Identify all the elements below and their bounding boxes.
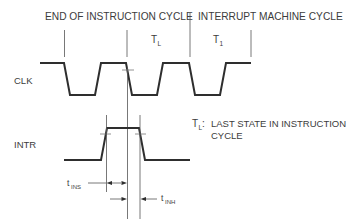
signal-label-clk: CLK (14, 75, 33, 86)
setup-time-dimension: t INS (67, 178, 127, 190)
svg-text:T: T (213, 34, 219, 45)
interrupt-timing-diagram: END OF INSTRUCTION CYCLE INTERRUPT MACHI… (0, 0, 363, 219)
header-interrupt-machine-cycle: INTERRUPT MACHINE CYCLE (198, 11, 343, 22)
arrow-right-icon (122, 197, 128, 201)
svg-text:L: L (158, 40, 162, 47)
svg-text::: : (202, 118, 205, 129)
signal-label-intr: INTR (14, 139, 36, 150)
intr-waveform (64, 128, 190, 160)
label-t-inh: t (161, 193, 164, 203)
svg-text:INH: INH (165, 199, 175, 205)
legend-line-2: CYCLE (211, 130, 243, 141)
svg-text:INS: INS (71, 184, 81, 190)
clk-waveform (40, 63, 251, 95)
arrow-right-icon (122, 181, 128, 185)
state-label-t1: T 1 (213, 34, 224, 47)
legend-line-1: LAST STATE IN INSTRUCTION (211, 118, 346, 129)
legend-tl-definition: T L : LAST STATE IN INSTRUCTION CYCLE (192, 118, 346, 141)
svg-text:1: 1 (220, 40, 224, 47)
label-t-ins: t (67, 178, 70, 188)
hold-time-dimension: t INH (110, 193, 175, 205)
svg-text:T: T (151, 34, 157, 45)
arrow-left-icon (141, 197, 147, 201)
svg-text:T: T (192, 118, 198, 129)
state-label-tl: T L (151, 34, 162, 47)
header-end-of-instruction-cycle: END OF INSTRUCTION CYCLE (45, 11, 193, 22)
arrow-left-icon (107, 181, 113, 185)
